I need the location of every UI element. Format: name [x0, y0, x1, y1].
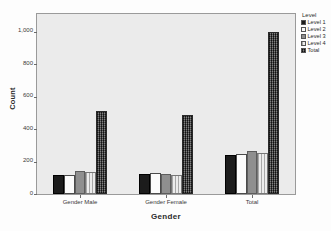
- legend-label: Level 2: [308, 26, 326, 32]
- legend-label: Level 3: [308, 33, 326, 39]
- bar: [85, 172, 96, 194]
- x-axis-tick-mark: [166, 195, 167, 198]
- chart-title: [28, 0, 158, 8]
- plot-inner: 02004006008001,000: [37, 14, 295, 194]
- x-axis-tick-label: Gender Male: [63, 199, 98, 205]
- legend-entry: Level 3: [301, 33, 331, 40]
- bar: [96, 111, 107, 194]
- bar: [268, 32, 279, 194]
- legend-title: Level: [301, 12, 331, 18]
- legend-swatch: [301, 34, 306, 39]
- bar: [236, 154, 247, 194]
- x-axis-tick-mark: [80, 195, 81, 198]
- y-axis-tick-label: 400: [23, 125, 33, 131]
- legend-entry: Level 4: [301, 40, 331, 47]
- y-axis-tick-label: 600: [23, 92, 33, 98]
- y-axis-tick-label: 200: [23, 157, 33, 163]
- x-axis-tick-mark: [252, 195, 253, 198]
- legend-swatch: [301, 27, 306, 32]
- y-axis-title: Count: [8, 69, 17, 129]
- bar: [139, 174, 150, 194]
- y-axis-tick-label: 800: [23, 60, 33, 66]
- bar: [53, 175, 64, 194]
- bar-group: [37, 14, 123, 194]
- y-axis-tick-label: 1,000: [18, 27, 33, 33]
- legend-swatch: [301, 48, 306, 53]
- legend-swatch: [301, 20, 306, 25]
- plot-area: 02004006008001,000: [36, 13, 296, 195]
- x-axis-tick-label: Total: [246, 199, 259, 205]
- bar-group: [209, 14, 295, 194]
- legend-label: Level 1: [308, 19, 326, 25]
- x-axis-tick-label: Gender Female: [145, 199, 187, 205]
- legend-entries: Level 1Level 2Level 3Level 4Total: [301, 19, 331, 54]
- legend-entry: Level 2: [301, 26, 331, 33]
- bar-chart: Count 02004006008001,000 Gender Level Le…: [0, 0, 331, 231]
- bar: [257, 153, 268, 194]
- legend-entry: Level 1: [301, 19, 331, 26]
- bar: [161, 174, 172, 194]
- bar: [75, 171, 86, 195]
- legend-entry: Total: [301, 47, 331, 54]
- bar: [171, 175, 182, 194]
- legend-label: Total: [308, 47, 320, 53]
- y-axis-tick-label: 0: [30, 190, 33, 196]
- legend-swatch: [301, 41, 306, 46]
- legend: Level Level 1Level 2Level 3Level 4Total: [301, 12, 331, 54]
- bar: [182, 115, 193, 194]
- legend-label: Level 4: [308, 40, 326, 46]
- bar-group: [123, 14, 209, 194]
- bar: [225, 155, 236, 194]
- x-axis-title: Gender: [36, 212, 296, 221]
- bar: [150, 173, 161, 194]
- bar: [64, 175, 75, 194]
- bar: [247, 151, 258, 194]
- y-axis-tick-mark: [34, 194, 37, 195]
